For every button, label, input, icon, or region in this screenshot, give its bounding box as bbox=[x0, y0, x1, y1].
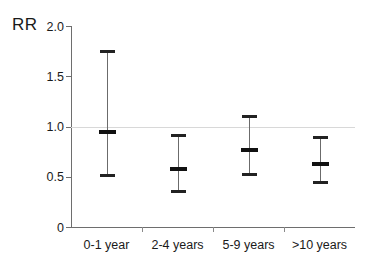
plot-area: 00.51.01.52.0 bbox=[71, 26, 355, 227]
y-axis-title: RR bbox=[12, 16, 38, 33]
x-tick-mark bbox=[142, 227, 143, 232]
point-estimate-marker bbox=[241, 148, 258, 152]
error-bar-stem bbox=[107, 51, 108, 175]
x-tick-mark bbox=[213, 227, 214, 232]
y-tick-label: 1.5 bbox=[47, 71, 64, 84]
error-bar-upper-cap bbox=[313, 136, 328, 139]
error-bar-lower-cap bbox=[313, 181, 328, 184]
point-estimate-marker bbox=[312, 162, 329, 166]
error-bar-lower-cap bbox=[171, 190, 186, 193]
relative-risk-error-bar-chart: RR 00.51.01.52.0 0-1 year2-4 years5-9 ye… bbox=[0, 0, 365, 269]
point-estimate-marker bbox=[99, 130, 116, 134]
x-label-5-9-years: 5-9 years bbox=[213, 239, 284, 257]
error-bar-stem bbox=[249, 116, 250, 173]
error-bar-stem bbox=[320, 137, 321, 182]
y-tick-label: 1.0 bbox=[47, 121, 64, 134]
x-label-0-1-year: 0-1 year bbox=[71, 239, 142, 257]
error-bar-upper-cap bbox=[100, 50, 115, 53]
error-bar-upper-cap bbox=[171, 134, 186, 137]
y-tick-mark bbox=[66, 127, 71, 128]
x-label-2-4-years: 2-4 years bbox=[142, 239, 213, 257]
reference-line-at-1 bbox=[71, 127, 355, 128]
point-estimate-marker bbox=[170, 167, 187, 171]
error-bar-lower-cap bbox=[100, 174, 115, 177]
y-tick-label: 2.0 bbox=[47, 20, 64, 33]
x-axis-category-labels: 0-1 year2-4 years5-9 years>10 years bbox=[71, 239, 355, 257]
y-tick-mark bbox=[66, 227, 71, 228]
y-tick-mark bbox=[66, 177, 71, 178]
error-bar-upper-cap bbox=[242, 115, 257, 118]
y-tick-mark bbox=[66, 26, 71, 27]
x-tick-mark bbox=[284, 227, 285, 232]
y-tick-label: 0.5 bbox=[47, 171, 64, 184]
y-tick-label: 0 bbox=[57, 221, 64, 234]
error-bar-stem bbox=[178, 135, 179, 191]
x-label--10-years: >10 years bbox=[284, 239, 355, 257]
error-bar-lower-cap bbox=[242, 173, 257, 176]
y-tick-mark bbox=[66, 76, 71, 77]
